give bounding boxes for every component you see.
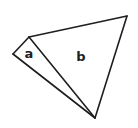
region-label-b: b bbox=[76, 49, 85, 64]
region-label-a: a bbox=[25, 46, 34, 61]
triangle-diagram: a b bbox=[0, 0, 138, 128]
